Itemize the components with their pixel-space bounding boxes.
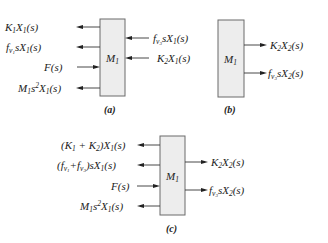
label-fv1sx1: fv1sX1(s) [6, 41, 42, 55]
force-k1x1-a: K1X1(s) [4, 21, 100, 35]
force-k1k2x1-c: (K1 + K2)X1(s) [61, 139, 160, 153]
arrowhead-icon [137, 204, 144, 208]
force-m1s2x1-a: M1s2X1(s) [17, 81, 100, 96]
panel-c: M1 (K1 + K2)X1(s) (fv1+fv3)sX1(s) F(s) M… [57, 136, 245, 235]
free-body-diagram: M1 K1X1(s) fv1sX1(s) F(s) M1s2X1(s) [0, 0, 328, 243]
label-f: F(s) [43, 61, 63, 74]
arrowhead-icon [260, 43, 267, 47]
panel-b: M1 K2X2(s) fv3sX2(s) (b) [218, 20, 304, 116]
force-fv3sx2-b: fv3sX2(s) [244, 67, 304, 81]
label-m1s2x1: M1s2X1(s) [17, 81, 61, 96]
label-k1k2x1: (K1 + K2)X1(s) [61, 139, 126, 153]
label-k2x2-c: K2X2(s) [210, 156, 245, 170]
arrowhead-icon [137, 163, 144, 167]
label-k2x1: K2X1(s) [156, 52, 191, 66]
label-k1x1: K1X1(s) [4, 21, 39, 35]
force-fv1fv3sx1-c: (fv1+fv3)sX1(s) [57, 159, 160, 173]
force-k2x1-a: K2X1(s) [125, 52, 191, 66]
arrowhead-icon [153, 184, 160, 188]
label-fv3sx1: fv3sX1(s) [153, 32, 189, 46]
arrowhead-icon [76, 25, 83, 29]
arrowhead-icon [201, 188, 208, 192]
label-fv1fv3sx1: (fv1+fv3)sX1(s) [57, 159, 116, 173]
arrowhead-icon [76, 86, 83, 90]
force-fv1sx1-a: fv1sX1(s) [6, 41, 100, 55]
arrowhead-icon [260, 71, 267, 75]
arrowhead-icon [125, 36, 132, 40]
label-f-c: F(s) [110, 180, 130, 193]
arrowhead-icon [125, 56, 132, 60]
arrowhead-icon [93, 65, 100, 69]
label-fv3sx2: fv3sX2(s) [268, 67, 304, 81]
caption-a: (a) [104, 104, 116, 116]
force-k2x2-b: K2X2(s) [244, 39, 304, 53]
arrowhead-icon [137, 143, 144, 147]
label-m1s2x1-c: M1s2X1(s) [79, 199, 123, 214]
force-fv3sx2-c: fv3sX2(s) [185, 184, 245, 198]
label-k2x2: K2X2(s) [269, 39, 304, 53]
arrowhead-icon [201, 160, 208, 164]
force-fv3sx1-a: fv3sX1(s) [125, 32, 189, 46]
force-f-c: F(s) [110, 180, 160, 193]
force-m1s2x1-c: M1s2X1(s) [79, 199, 160, 214]
force-f-a: F(s) [43, 61, 100, 74]
panel-a: M1 K1X1(s) fv1sX1(s) F(s) M1s2X1(s) [4, 19, 191, 116]
caption-c: (c) [166, 223, 177, 235]
arrowhead-icon [76, 45, 83, 49]
force-k2x2-c: K2X2(s) [185, 156, 245, 170]
label-fv3sx2-c: fv3sX2(s) [209, 184, 245, 198]
caption-b: (b) [224, 104, 236, 116]
